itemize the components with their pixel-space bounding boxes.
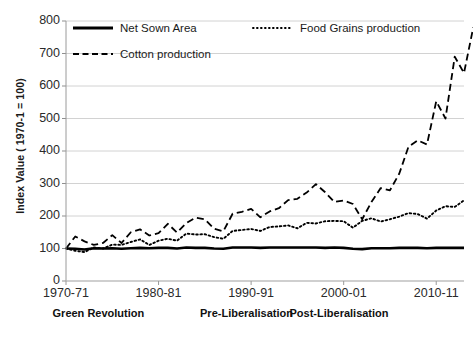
y-tick-label: 400 xyxy=(14,143,60,157)
legend-item: Cotton production xyxy=(72,48,211,60)
legend-key-dashed xyxy=(72,49,114,59)
y-tick-label: 0 xyxy=(14,273,60,287)
x-axis-tick-labels: 1970-711980-811990-912000-012010-11 xyxy=(0,286,473,302)
x-tick-label: 1980-81 xyxy=(136,286,182,300)
y-axis-tick-labels: 8007006005004003002001000 xyxy=(8,21,60,281)
y-tick-label: 200 xyxy=(14,208,60,222)
legend-item: Net Sown Area xyxy=(72,22,197,34)
y-tick-label: 600 xyxy=(14,78,60,92)
chart-figure: Index Value ( 1970-1 = 100) 800700600500… xyxy=(0,0,473,342)
chart-legend: Net Sown AreaFood Grains productionCotto… xyxy=(72,22,402,64)
x-axis-ticks xyxy=(66,281,436,285)
y-tick-label: 700 xyxy=(14,46,60,60)
legend-key-solid xyxy=(72,23,114,33)
period-label: Post-Liberalisation xyxy=(290,307,389,319)
x-tick-label: 1990-91 xyxy=(228,286,274,300)
legend-label: Cotton production xyxy=(120,48,211,60)
y-tick-label: 100 xyxy=(14,241,60,255)
legend-key-dotted xyxy=(252,23,294,33)
legend-item: Food Grains production xyxy=(252,22,420,34)
x-tick-label: 2010-11 xyxy=(414,286,459,300)
x-tick-label: 1970-71 xyxy=(43,286,89,300)
figure-caption xyxy=(12,333,462,342)
y-tick-label: 800 xyxy=(14,13,60,27)
period-label: Pre-Liberalisation xyxy=(200,307,293,319)
period-label: Green Revolution xyxy=(53,307,145,319)
series-line xyxy=(66,200,464,252)
legend-label: Net Sown Area xyxy=(120,22,197,34)
series-line xyxy=(66,248,464,250)
y-tick-label: 300 xyxy=(14,176,60,190)
period-annotations: Green RevolutionPre-LiberalisationPost-L… xyxy=(0,307,473,325)
y-tick-label: 500 xyxy=(14,111,60,125)
x-tick-label: 2000-01 xyxy=(321,286,367,300)
legend-label: Food Grains production xyxy=(300,22,420,34)
